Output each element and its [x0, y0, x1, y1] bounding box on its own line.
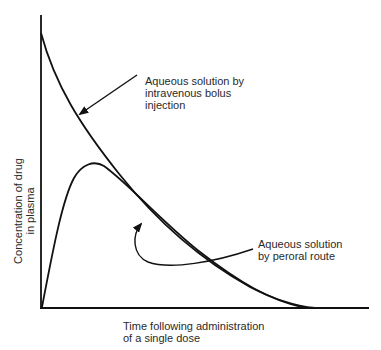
iv-label-line-1: Aqueous solution by [145, 75, 244, 87]
oral-label-line-2: by peroral route [258, 250, 342, 262]
y-axis-label: Concentration of drug in plasma [12, 116, 36, 306]
oral-pointer-arrow [135, 224, 253, 265]
pharmacokinetic-diagram [0, 0, 381, 350]
iv-label-line-3: injection [145, 99, 244, 111]
oral-series-label: Aqueous solution by peroral route [258, 238, 342, 262]
iv-pointer-arrow [80, 75, 137, 114]
x-axis-label-line-1: Time following administration [123, 320, 264, 332]
x-axis-label: Time following administration of a singl… [123, 320, 264, 344]
y-axis-label-line-2: in plasma [24, 116, 36, 306]
oral-curve [42, 163, 302, 307]
iv-series-label: Aqueous solution by intravenous bolus in… [145, 75, 244, 111]
y-axis-label-line-1: Concentration of drug [12, 116, 24, 306]
oral-label-line-1: Aqueous solution [258, 238, 342, 250]
iv-label-line-2: intravenous bolus [145, 87, 244, 99]
x-axis-label-line-2: of a single dose [123, 332, 264, 344]
